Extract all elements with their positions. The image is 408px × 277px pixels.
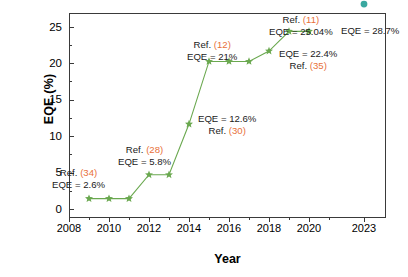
x-tickmark-2016 [229, 217, 230, 222]
x-tick-2010: 2010 [89, 222, 129, 234]
x-axis-label: Year [69, 252, 386, 266]
x-tickmark-minor-2011 [129, 217, 130, 220]
y-tickmark-minor-7 [69, 154, 72, 155]
y-tickmark-20 [69, 63, 74, 64]
y-tick-25: 25 [32, 21, 62, 33]
x-tickmark-minor-2017 [249, 217, 250, 220]
annotation-record: EQE = 28.7% [341, 25, 399, 37]
annotation-ref-35: EQE = 22.4% Ref. (35) [279, 48, 337, 71]
eqe-value-11: EQE = 25.04% [269, 26, 333, 38]
y-tickmark-minor-22 [69, 45, 72, 46]
x-tickmark-2010 [109, 217, 110, 222]
eqe-value-35: EQE = 22.4% [279, 48, 337, 60]
x-tickmark-2014 [189, 217, 190, 222]
x-tickmark-minor-2013 [169, 217, 170, 220]
x-tickmark-2023 [364, 217, 365, 222]
chart-figure: EQE (%) Year 25 20 15 10 5 0 2008 2010 2… [0, 0, 408, 277]
ref-num-30: (30) [229, 125, 246, 136]
eqe-value-30: EQE = 12.6% [198, 113, 256, 125]
x-tickmark-2020 [309, 217, 310, 222]
record-marker [361, 1, 368, 8]
annotation-ref-11: Ref. (11) EQE = 25.04% [269, 14, 333, 37]
x-tickmark-minor-2019 [289, 217, 290, 220]
ref-num-28: (28) [146, 144, 163, 155]
y-tickmark-25 [69, 27, 74, 28]
y-tickmark-15 [69, 100, 74, 101]
y-tick-20: 20 [32, 57, 62, 69]
x-tick-2016: 2016 [209, 222, 249, 234]
annotation-ref-34: Ref. (34) EQE = 2.6% [52, 167, 105, 190]
ref-label-12: Ref. [194, 39, 214, 50]
ref-num-34: (34) [80, 167, 97, 178]
annotation-ref-28: Ref. (28) EQE = 5.8% [118, 144, 171, 167]
x-tick-2012: 2012 [129, 222, 169, 234]
ref-num-11: (11) [303, 14, 319, 25]
y-tickmark-0 [69, 209, 74, 210]
x-tick-2014: 2014 [169, 222, 209, 234]
x-tick-2018: 2018 [249, 222, 289, 234]
eqe-value-12: EQE = 21% [187, 51, 237, 63]
x-tickmark-2008 [69, 217, 70, 222]
ref-label-35: Ref. [290, 60, 310, 71]
annotation-ref-12: Ref. (12) EQE = 21% [187, 39, 237, 62]
annotation-ref-30: EQE = 12.6% Ref. (30) [198, 113, 256, 136]
y-tick-10: 10 [32, 130, 62, 142]
ref-num-35: (35) [310, 60, 327, 71]
x-tick-2023: 2023 [344, 222, 384, 234]
x-tickmark-2018 [269, 217, 270, 222]
y-tickmark-10 [69, 136, 74, 137]
eqe-value-34: EQE = 2.6% [52, 179, 105, 191]
x-tick-2020: 2020 [289, 222, 329, 234]
x-tickmark-minor-2015 [209, 217, 210, 220]
y-tickmark-minor-12 [69, 118, 72, 119]
y-tickmark-minor-17 [69, 81, 72, 82]
ref-label-28: Ref. [126, 144, 146, 155]
y-tickmark-minor-2 [69, 191, 72, 192]
y-tick-15: 15 [32, 93, 62, 105]
x-tickmark-minor-2009 [89, 217, 90, 220]
eqe-value-28: EQE = 5.8% [118, 156, 171, 168]
ref-label-30: Ref. [209, 125, 229, 136]
x-tickmark-minor-2021 [329, 217, 330, 220]
eqe-value-record: EQE = 28.7% [341, 25, 399, 36]
record-point-circle [361, 1, 368, 8]
ref-label-34: Ref. [60, 167, 80, 178]
ref-num-12: (12) [214, 39, 231, 50]
y-tick-0: 0 [32, 203, 62, 215]
x-tick-2008: 2008 [49, 222, 89, 234]
ref-label-11: Ref. [283, 14, 303, 25]
x-tickmark-2012 [149, 217, 150, 222]
